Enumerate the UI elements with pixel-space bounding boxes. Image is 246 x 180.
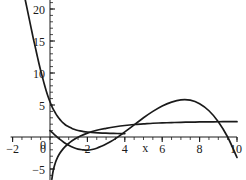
y-tick-label: 5	[39, 99, 45, 113]
chart-figure: −20246810 −505101520 x	[0, 0, 246, 180]
curve-decaying-curve	[24, 0, 125, 134]
y-tick-label: 0	[40, 138, 46, 152]
x-tick-label: 8	[197, 142, 203, 156]
x-tick-label: −2	[6, 142, 19, 156]
chart-annotations: x	[142, 141, 148, 155]
y-tick-label: −5	[32, 163, 45, 177]
y-axis-major-ticks	[50, 9, 55, 169]
y-tick-label: 20	[33, 3, 45, 17]
plot-canvas: −20246810 −505101520 x	[0, 0, 246, 180]
x-tick-label: 6	[159, 142, 165, 156]
data-curves	[24, 0, 237, 179]
x-tick-label: 4	[122, 142, 128, 156]
x-axis-title: x	[142, 141, 148, 155]
x-tick-label: 2	[84, 142, 90, 156]
y-axis-tick-labels: −505101520	[32, 3, 46, 177]
